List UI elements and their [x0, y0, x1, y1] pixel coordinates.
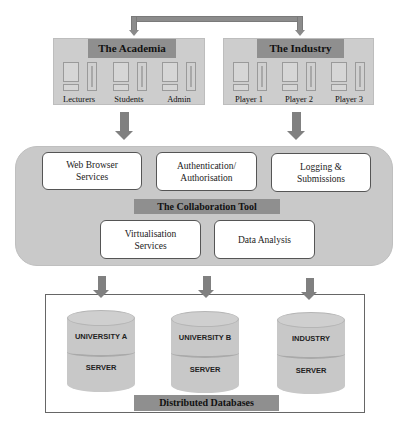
member-label: Player 2 — [274, 94, 324, 104]
member-label: Lecturers — [54, 94, 104, 104]
service-line: Authorisation — [180, 173, 232, 183]
database-cylinder-university-a: UNIVERSITY A SERVER — [67, 310, 135, 392]
computer-tower-icon — [306, 62, 316, 91]
cylinder-divider — [67, 347, 135, 357]
industry-title: The Industry — [257, 39, 344, 58]
service-line: Authentication/ — [177, 161, 236, 171]
keyboard-icon — [113, 84, 129, 91]
computer-monitor-icon — [282, 62, 298, 82]
top-connector-left-stem — [131, 16, 137, 31]
arrow-down-icon — [295, 30, 305, 36]
database-icon — [171, 311, 239, 327]
computer-tower-icon — [186, 62, 196, 91]
computer-monitor-icon — [331, 62, 347, 82]
server-type: SERVER — [171, 365, 239, 374]
computer-tower-icon — [257, 62, 267, 91]
cylinder-divider — [277, 349, 345, 359]
service-virtualisation: VirtualisationServices — [100, 220, 201, 259]
arrow-shaft — [292, 112, 301, 132]
service-line: Services — [76, 172, 108, 182]
service-web-browser: Web BrowserServices — [42, 152, 142, 190]
computer-monitor-icon — [63, 62, 79, 82]
collaboration-tool-title: The Collaboration Tool — [134, 199, 280, 214]
service-line: Logging & — [300, 162, 342, 172]
academia-group: The Academia Lecturers Students Admin — [53, 38, 205, 105]
member-label: Player 1 — [224, 94, 274, 104]
keyboard-icon — [331, 84, 347, 91]
computer-monitor-icon — [162, 62, 178, 82]
database-cylinder-university-b: UNIVERSITY B SERVER — [171, 311, 239, 393]
member-label: Player 3 — [324, 94, 374, 104]
keyboard-icon — [63, 84, 79, 91]
industry-group: The Industry Player 1 Player 2 Player 3 — [223, 38, 374, 105]
member-label: Admin — [154, 94, 204, 104]
arrow-down-icon — [129, 30, 139, 36]
keyboard-icon — [233, 84, 249, 91]
computer-monitor-icon — [113, 62, 129, 82]
service-data-analysis: Data Analysis — [214, 220, 315, 259]
service-line: Virtualisation — [125, 229, 177, 239]
server-type: SERVER — [277, 366, 345, 375]
arrow-down-icon — [115, 131, 133, 140]
database-cylinder-industry: INDUSTRY SERVER — [277, 312, 345, 394]
server-name: UNIVERSITY B — [171, 333, 239, 342]
academia-title: The Academia — [88, 39, 176, 58]
keyboard-icon — [282, 84, 298, 91]
arrow-shaft — [120, 112, 129, 132]
server-name: UNIVERSITY A — [67, 332, 135, 341]
member-label: Students — [104, 94, 154, 104]
keyboard-icon — [162, 84, 178, 91]
distributed-databases-title: Distributed Databases — [134, 395, 279, 411]
computer-tower-icon — [355, 62, 365, 91]
service-line: Submissions — [297, 174, 345, 184]
arrow-down-icon — [287, 131, 305, 140]
arrow-down-icon — [198, 290, 214, 298]
top-connector-right-stem — [297, 16, 303, 31]
top-connector-bar — [131, 16, 303, 22]
arrow-down-icon — [93, 290, 109, 298]
service-authentication: Authentication/Authorisation — [156, 152, 257, 191]
database-icon — [277, 312, 345, 328]
computer-tower-icon — [87, 62, 97, 91]
database-icon — [67, 310, 135, 326]
service-line: Services — [134, 241, 166, 251]
service-logging-submissions: Logging &Submissions — [271, 153, 371, 192]
arrow-down-icon — [301, 292, 317, 300]
service-line: Web Browser — [66, 160, 118, 170]
server-name: INDUSTRY — [277, 334, 345, 343]
computer-tower-icon — [137, 62, 147, 91]
service-line: Data Analysis — [238, 234, 291, 246]
computer-monitor-icon — [233, 62, 249, 82]
server-type: SERVER — [67, 363, 135, 372]
collaboration-tool-panel: Web BrowserServices Authentication/Autho… — [15, 146, 393, 266]
cylinder-divider — [171, 348, 239, 358]
